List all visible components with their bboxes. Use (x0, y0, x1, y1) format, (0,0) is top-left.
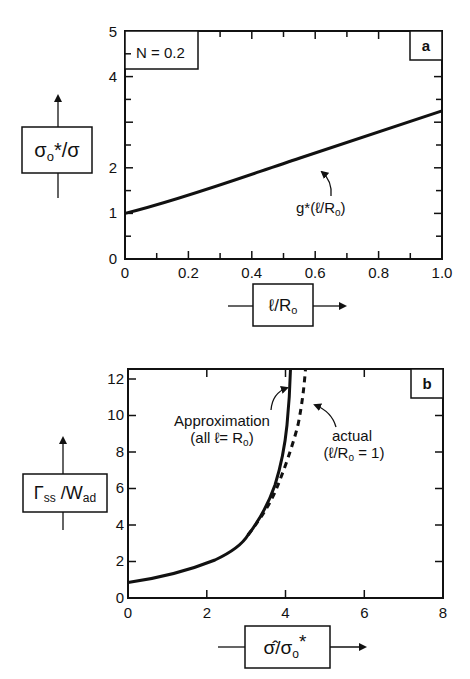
panel-b-annotation-approximation-sub: (all ℓ= Ro) (190, 429, 253, 448)
x-tick-label: 0.6 (305, 264, 326, 281)
figure: 0 0.2 0.4 0.6 0.8 1.0 0 1 2 4 5 N = 0.2 … (0, 0, 470, 679)
y-tick-label: 0 (116, 589, 124, 606)
panel-a-y-ticks (125, 54, 442, 236)
panel-b-annotation-arrow-actual (315, 405, 336, 427)
panel-a-annotation: g*(ℓ/Ro) (296, 199, 346, 218)
panel-a-y-axis-label: σo*/σ (22, 96, 92, 198)
panel-a-x-tick-labels: 0 0.2 0.4 0.6 0.8 1.0 (121, 264, 453, 281)
y-tick-label: 6 (116, 479, 124, 496)
y-tick-label: 8 (116, 443, 124, 460)
x-tick-label: 1.0 (432, 264, 453, 281)
x-tick-label: 4 (281, 604, 289, 621)
svg-text:σo*/σ: σo*/σ (34, 139, 80, 164)
y-tick-label: 4 (116, 516, 124, 533)
y-tick-label: 2 (109, 159, 117, 176)
panel-b-annotation-approximation: Approximation (174, 412, 270, 429)
y-tick-label: 4 (109, 68, 117, 85)
panel-b-label: b (422, 375, 431, 392)
panel-b-y-tick-labels: 0 2 4 6 8 10 12 (107, 370, 124, 606)
x-tick-label: 6 (360, 604, 368, 621)
panel-a-x-axis-label: ℓ/Ro (228, 284, 345, 326)
panel-a-inset-label: N = 0.2 (136, 44, 185, 61)
panel-a-annotation-arrow (322, 172, 331, 196)
panel-b: 0 2 4 6 8 0 2 4 6 8 10 12 b Approximatio… (23, 369, 447, 668)
y-tick-label: 10 (107, 406, 124, 423)
y-tick-label: 2 (116, 552, 124, 569)
panel-b-annotation-arrow-approximation (271, 388, 287, 410)
panel-b-annotation-actual: actual (332, 427, 372, 444)
panel-a: 0 0.2 0.4 0.6 0.8 1.0 0 1 2 4 5 N = 0.2 … (22, 23, 452, 326)
x-tick-label: 0 (124, 604, 132, 621)
panel-b-y-ticks (128, 379, 443, 562)
panel-b-y-axis-label: Γss /Wad (23, 438, 107, 530)
x-tick-label: 0.2 (178, 264, 199, 281)
x-tick-label: 0.4 (241, 264, 262, 281)
x-tick-label: 0.8 (368, 264, 389, 281)
panel-b-plot-frame (128, 369, 443, 598)
panel-b-curve-approximation (128, 369, 291, 583)
y-tick-label: 1 (109, 204, 117, 221)
panel-b-annotation-actual-sub: (ℓ/Ro = 1) (324, 444, 385, 463)
panel-a-curve-g-star (125, 111, 442, 214)
y-tick-label: 0 (109, 250, 117, 267)
panel-b-x-axis-label: σ̂/σo* (218, 626, 365, 668)
x-tick-label: 2 (203, 604, 211, 621)
panel-b-x-tick-labels: 0 2 4 6 8 (124, 604, 447, 621)
x-tick-label: 8 (439, 604, 447, 621)
panel-b-x-ticks (207, 369, 364, 598)
y-tick-label: 12 (107, 370, 124, 387)
panel-a-y-tick-labels: 0 1 2 4 5 (109, 23, 117, 267)
y-tick-label: 5 (109, 23, 117, 40)
panel-a-label: a (422, 37, 431, 54)
x-tick-label: 0 (121, 264, 129, 281)
